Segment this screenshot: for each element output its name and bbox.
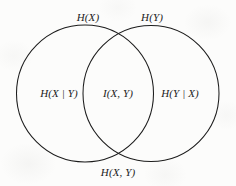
label-entropy-y: H(Y) xyxy=(141,12,163,23)
label-conditional-entropy-x-given-y: H(X | Y) xyxy=(40,88,77,99)
entropy-venn-diagram: H(X) H(Y) H(X | Y) I(X, Y) H(Y | X) H(X,… xyxy=(0,0,236,186)
label-entropy-x: H(X) xyxy=(77,12,99,23)
label-conditional-entropy-y-given-x: H(Y | X) xyxy=(161,88,198,99)
label-mutual-information: I(X, Y) xyxy=(103,88,133,99)
label-joint-entropy: H(X, Y) xyxy=(101,167,135,178)
